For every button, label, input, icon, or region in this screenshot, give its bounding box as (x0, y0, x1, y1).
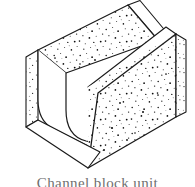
right-end-face (176, 34, 186, 117)
left-end-face (26, 50, 38, 127)
figure-caption: Channel block unit (0, 176, 195, 187)
figure-caption-text: Channel block unit (0, 176, 195, 187)
channel-block-illustration (0, 0, 195, 175)
figure-container: Channel block unit (0, 0, 195, 187)
